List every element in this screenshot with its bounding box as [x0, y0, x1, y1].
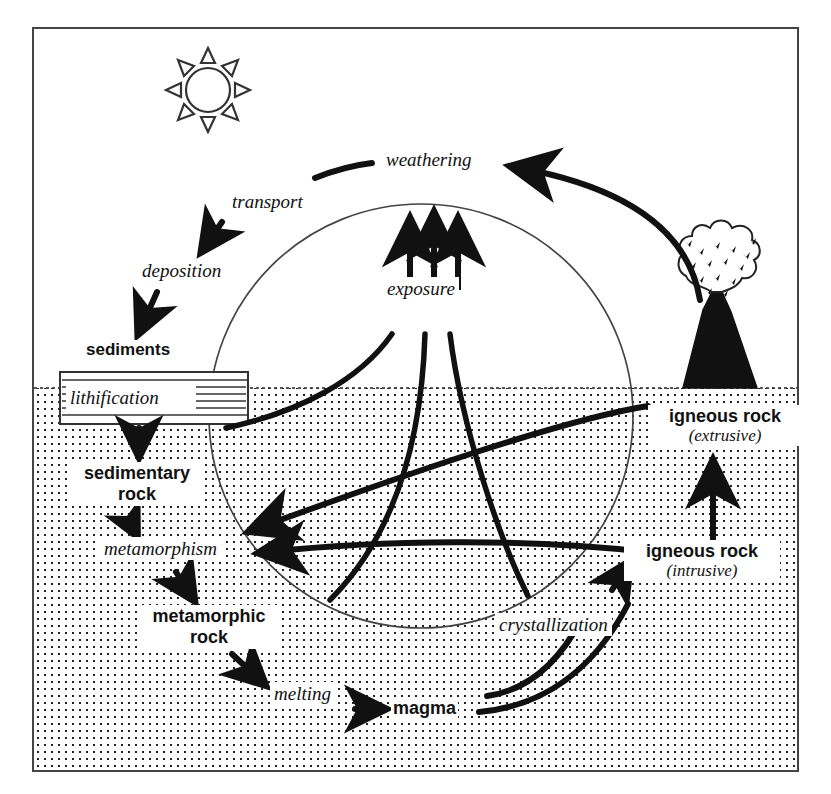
label-igneous-rock-extrusive: igneous rock (extrusive) [648, 405, 802, 446]
label-sedimentary-rock: sedimentary rock [72, 462, 202, 506]
label-melting: melting [270, 682, 335, 705]
label-weathering: weathering [382, 148, 476, 171]
igneous-extrusive-line1: igneous rock [669, 406, 781, 426]
label-deposition: deposition [138, 259, 225, 282]
label-lithification: lithification [66, 386, 163, 409]
sedimentary-rock-line2: rock [75, 484, 199, 505]
igneous-extrusive-sub: (extrusive) [651, 426, 799, 445]
label-transport: transport [228, 190, 307, 213]
label-exposure: exposure [383, 277, 459, 300]
rock-cycle-diagram: weathering transport deposition sediment… [0, 0, 831, 794]
metamorphic-rock-line2: rock [143, 627, 275, 648]
igneous-intrusive-sub: (intrusive) [627, 561, 777, 580]
igneous-intrusive-line1: igneous rock [646, 541, 758, 561]
label-magma: magma [391, 698, 458, 718]
label-metamorphic-rock: metamorphic rock [140, 605, 278, 649]
sedimentary-rock-line1: sedimentary [84, 463, 190, 483]
metamorphic-rock-line1: metamorphic [152, 606, 265, 626]
label-metamorphism: metamorphism [100, 537, 221, 560]
label-igneous-rock-intrusive: igneous rock (intrusive) [624, 540, 780, 581]
label-sediments: sediments [84, 340, 172, 359]
label-crystallization: crystallization [495, 613, 612, 636]
